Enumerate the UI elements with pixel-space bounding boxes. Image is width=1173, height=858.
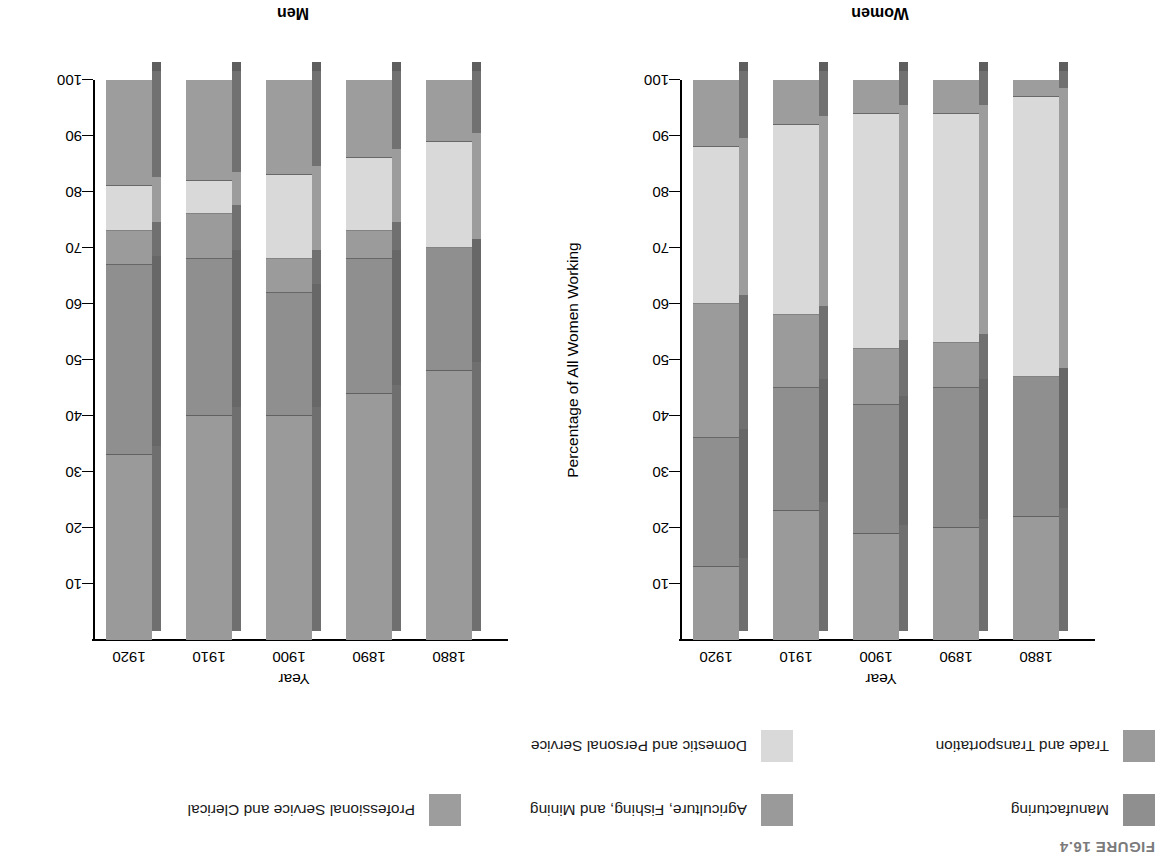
- bar-bottom-cap: [739, 62, 748, 71]
- segment-divider: [346, 230, 392, 231]
- y-tick-label: 40: [629, 408, 669, 425]
- y-tick: [82, 79, 93, 80]
- bar-segment: [693, 567, 739, 640]
- chart-title-women: Women: [851, 4, 908, 22]
- y-tick-label: 90: [629, 128, 669, 145]
- segment-divider: [186, 258, 232, 259]
- segment-divider: [426, 247, 472, 248]
- y-tick-label: 10: [42, 576, 82, 593]
- y-tick: [82, 471, 93, 472]
- y-tick: [82, 583, 93, 584]
- segment-divider: [853, 533, 899, 534]
- y-tick: [669, 79, 680, 80]
- segment-divider: [266, 415, 312, 416]
- y-tick: [669, 191, 680, 192]
- bar-segment-side: [899, 340, 908, 396]
- y-tick-label: 40: [42, 408, 82, 425]
- bar-segment-side: [152, 177, 161, 222]
- segment-divider: [106, 185, 152, 186]
- bar-segment-side: [472, 239, 481, 362]
- y-tick: [82, 415, 93, 416]
- y-axis-label-women: Percentage of All Women Working: [564, 242, 582, 478]
- y-tick: [82, 359, 93, 360]
- bar-segment-side: [472, 133, 481, 239]
- bar-segment-side: [899, 525, 908, 631]
- legend-item-domestic: Domestic and Personal Service: [531, 730, 793, 762]
- bar-segment: [346, 259, 392, 393]
- bar-segment-side: [819, 306, 828, 379]
- segment-divider: [346, 393, 392, 394]
- bar-segment: [773, 315, 819, 388]
- bar-segment: [1013, 517, 1059, 640]
- bar-segment: [1013, 80, 1059, 97]
- bar-side-face: [232, 71, 241, 631]
- segment-divider: [1013, 376, 1059, 377]
- y-tick-label: 90: [42, 128, 82, 145]
- segment-divider: [346, 258, 392, 259]
- bar-front-face: [773, 80, 819, 640]
- y-tick: [669, 247, 680, 248]
- y-tick-label: 50: [629, 352, 669, 369]
- legend-swatch-trade: [1123, 730, 1155, 762]
- bar-segment: [1013, 377, 1059, 517]
- bar-segment: [266, 80, 312, 175]
- y-tick-label: 60: [629, 296, 669, 313]
- bar-segment-side: [152, 222, 161, 256]
- bar-bottom-cap: [392, 62, 401, 71]
- y-tick: [82, 135, 93, 136]
- plot-area-men: 102030405060708090100 Percentage of All …: [94, 80, 494, 640]
- bar-segment: [346, 158, 392, 231]
- legend-label-domestic: Domestic and Personal Service: [531, 738, 747, 754]
- segment-divider: [186, 180, 232, 181]
- segment-divider: [773, 124, 819, 125]
- segment-divider: [266, 292, 312, 293]
- bar-segment-side: [979, 334, 988, 379]
- bar-segment-side: [312, 284, 321, 407]
- bar-segment: [1013, 97, 1059, 377]
- bar-segment: [933, 388, 979, 528]
- bar-segment-side: [979, 105, 988, 335]
- bar-segment-side: [979, 379, 988, 519]
- bar-segment: [266, 416, 312, 640]
- legend-item-professional: Professional Service and Clerical: [188, 794, 461, 826]
- bar-segment: [426, 80, 472, 142]
- bar-front-face: [933, 80, 979, 640]
- segment-divider: [106, 264, 152, 265]
- bar-segment-side: [152, 256, 161, 446]
- bar-segment: [186, 80, 232, 181]
- bar-segment-side: [232, 407, 241, 631]
- segment-divider: [1013, 96, 1059, 97]
- y-tick-label: 60: [42, 296, 82, 313]
- bar-side-face: [1059, 71, 1068, 631]
- bar-segment-side: [819, 502, 828, 631]
- bar-segment-side: [312, 407, 321, 631]
- bar-segment: [186, 214, 232, 259]
- y-tick-label: 80: [629, 184, 669, 201]
- bar-side-face: [472, 71, 481, 631]
- legend-swatch-agriculture: [761, 794, 793, 826]
- bar-segment: [266, 175, 312, 259]
- bar-segment-side: [739, 429, 748, 558]
- bar-side-face: [392, 71, 401, 631]
- y-tick-label: 30: [629, 464, 669, 481]
- bar-segment: [933, 343, 979, 388]
- segment-divider: [853, 404, 899, 405]
- bar-front-face: [693, 80, 739, 640]
- bar-segment-side: [232, 71, 241, 172]
- x-axis-label-women: Year: [865, 670, 896, 688]
- figure-number: FIGURE 16.4: [1059, 839, 1155, 856]
- bar-bottom-cap: [152, 62, 161, 71]
- legend-item-agriculture: Agriculture, Fishing, and Mining: [530, 794, 793, 826]
- segment-divider: [186, 415, 232, 416]
- segment-divider: [426, 141, 472, 142]
- bar-segment: [933, 528, 979, 640]
- y-tick: [82, 191, 93, 192]
- x-tick-label-1900: 1900: [859, 649, 892, 666]
- legend-label-agriculture: Agriculture, Fishing, and Mining: [530, 802, 747, 818]
- y-tick-label: 10: [629, 576, 669, 593]
- bar-segment-side: [232, 205, 241, 250]
- bar-segment-side: [899, 105, 908, 340]
- y-tick-label: 30: [42, 464, 82, 481]
- bar-segment-side: [392, 385, 401, 631]
- bar-side-face: [899, 71, 908, 631]
